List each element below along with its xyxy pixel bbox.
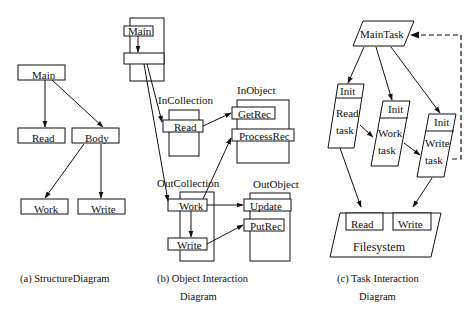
structure-diagram: Main Read Body Work Write (a) StructureD… — [18, 65, 125, 285]
caption-task-line2: Diagram — [359, 291, 396, 302]
task-write-init: Init — [434, 116, 449, 128]
caption-object-line2: Diagram — [180, 291, 217, 302]
method-read-label: Read — [174, 121, 197, 133]
node-body: Body — [72, 128, 119, 144]
caption-structure: (a) StructureDiagram — [20, 273, 110, 285]
filesystem-port-write-label: Write — [398, 218, 423, 230]
method-work-label: Work — [179, 200, 204, 212]
arrowhead-dashed — [410, 32, 419, 39]
task-read: Init Read task — [328, 84, 364, 148]
main-task: MainTask — [353, 21, 414, 46]
main-task-label: MainTask — [360, 28, 404, 40]
caption-object-line1: (b) Object Interaction — [157, 273, 249, 285]
edge-body-work — [45, 144, 84, 198]
method-getrec-label: GetRec — [238, 108, 271, 120]
object-interaction-diagram: Main InCollection Read InObject GetRec P… — [124, 18, 299, 302]
figure-canvas: Main Read Body Work Write (a) StructureD… — [0, 0, 476, 323]
edge-worktask-writetask — [404, 143, 420, 155]
node-write: Write — [78, 199, 125, 215]
task-read-label-1: Read — [336, 107, 359, 119]
filesystem-port-read-label: Read — [351, 218, 374, 230]
task-read-label-2: task — [336, 124, 354, 136]
node-body-label: Body — [85, 132, 109, 144]
task-work-label-2: task — [378, 144, 396, 156]
method-update-label: Update — [250, 200, 282, 212]
object-out-object: Update PutRec — [244, 193, 291, 261]
node-main: Main — [18, 65, 65, 81]
task-work: Init Work task — [371, 101, 410, 166]
node-write-label: Write — [91, 203, 116, 215]
task-read-init: Init — [340, 85, 355, 97]
edge-maintask-worktask — [376, 47, 392, 100]
task-write-label-1: Write — [425, 137, 450, 149]
object-in-collection: Read — [163, 110, 203, 156]
task-write: Init Write task — [417, 114, 456, 177]
node-read: Read — [18, 128, 65, 144]
node-main-label: Main — [32, 69, 56, 81]
method-putrec-label: PutRec — [250, 220, 282, 232]
edge-writetask-filesystem — [413, 178, 432, 207]
method-write-label: Write — [177, 239, 202, 251]
edge-read-getrec — [203, 113, 231, 126]
task-interaction-diagram: MainTask Init Read task Init Work task I… — [328, 21, 461, 302]
in-object-title: InObject — [237, 84, 275, 96]
node-read-label: Read — [32, 132, 55, 144]
task-work-init: Init — [388, 103, 403, 115]
filesystem-label: Filesystem — [353, 240, 406, 254]
method-main-label: Main — [128, 25, 152, 37]
filesystem: Read Write Filesystem — [330, 213, 441, 257]
in-collection-title: InCollection — [158, 94, 213, 106]
node-work: Work — [21, 199, 68, 215]
edge-readtask-worktask — [360, 125, 373, 137]
edge-maintask-readtask — [348, 47, 364, 83]
object-in-object: GetRec ProcessRec — [232, 100, 294, 163]
task-work-label-1: Work — [378, 127, 403, 139]
out-object-title: OutObject — [253, 178, 299, 190]
edge-work-processrec — [203, 138, 231, 199]
node-work-label: Work — [34, 203, 59, 215]
object-main: Main — [124, 18, 164, 81]
edge-main-body — [52, 80, 103, 127]
edge-readtask-filesystem — [340, 148, 361, 207]
method-processrec-label: ProcessRec — [239, 130, 290, 142]
caption-task-line1: (c) Task Interaction — [337, 273, 420, 285]
task-write-label-2: task — [425, 154, 443, 166]
method-main-body — [124, 53, 164, 64]
